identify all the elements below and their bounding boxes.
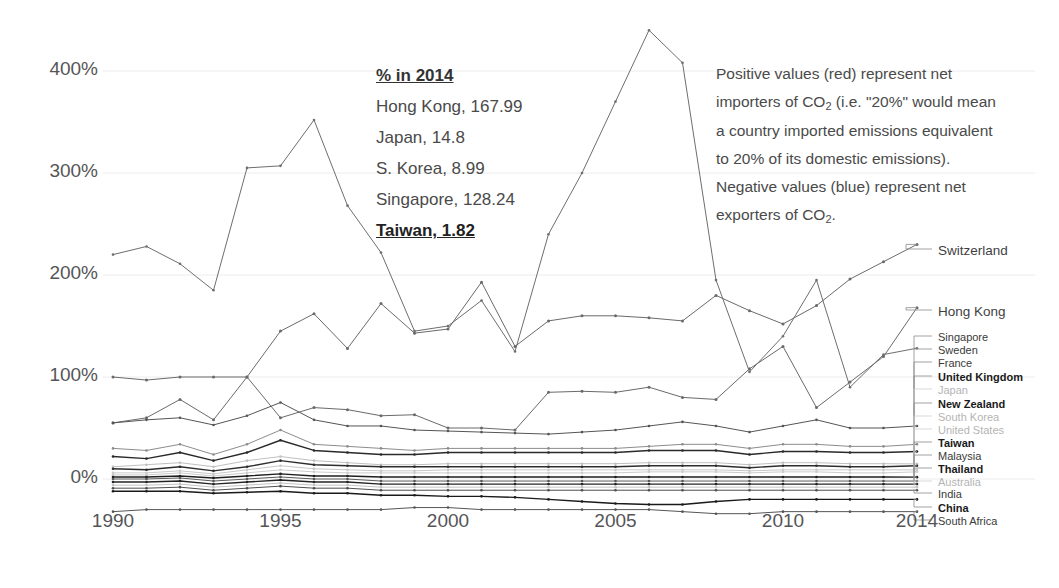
series-label-new-zealand: New Zealand: [938, 399, 1005, 410]
y-axis-tick-label: 200%: [8, 262, 98, 284]
y-axis-tick-label: 300%: [8, 160, 98, 182]
callout-annotation: % in 2014Hong Kong, 167.99Japan, 14.8S. …: [376, 60, 601, 246]
series-label-japan: Japan: [938, 385, 968, 396]
series-china: [112, 490, 919, 506]
callout-highlight: Taiwan, 1.82: [376, 215, 601, 246]
callout-line: Singapore, 128.24: [376, 184, 601, 215]
series-label-china: China: [938, 503, 969, 514]
series-label-taiwan: Taiwan: [938, 438, 974, 449]
x-axis-tick-label: 1990: [68, 510, 158, 532]
x-axis-tick-label: 1995: [236, 510, 326, 532]
callout-line: Hong Kong, 167.99: [376, 91, 601, 122]
series-label-thailand: Thailand: [938, 464, 983, 475]
series-label-united-kingdom: United Kingdom: [938, 372, 1023, 383]
x-axis-tick-label: 2005: [571, 510, 661, 532]
series-hong-kong: [112, 306, 919, 431]
callout-heading: % in 2014: [376, 60, 601, 91]
series-label-switzerland: Switzerland: [938, 245, 1008, 256]
series-label-south-korea: South Korea: [938, 412, 999, 423]
explanatory-note: Positive values (red) represent net impo…: [716, 60, 1006, 230]
series-label-malaysia: Malaysia: [938, 451, 981, 462]
series-united-kingdom: [112, 439, 919, 462]
series-label-india: India: [938, 489, 962, 500]
series-label-hong-kong: Hong Kong: [938, 306, 1006, 317]
series-label-singapore: Singapore: [938, 332, 988, 343]
y-axis-tick-label: 400%: [8, 58, 98, 80]
series-label-sweden: Sweden: [938, 345, 978, 356]
series-label-south-africa: South Africa: [938, 516, 997, 527]
callout-line: S. Korea, 8.99: [376, 153, 601, 184]
chart-root: 400%300%200%100%0%1990199520002005201020…: [0, 0, 1059, 588]
series-label-united-states: United States: [938, 425, 1004, 436]
series-label-france: France: [938, 358, 972, 369]
series-label-australia: Australia: [938, 477, 981, 488]
callout-line: Japan, 14.8: [376, 122, 601, 153]
x-axis-tick-label: 2010: [738, 510, 828, 532]
x-axis-tick-label: 2000: [403, 510, 493, 532]
y-axis-tick-label: 100%: [8, 364, 98, 386]
y-axis-tick-label: 0%: [8, 466, 98, 488]
